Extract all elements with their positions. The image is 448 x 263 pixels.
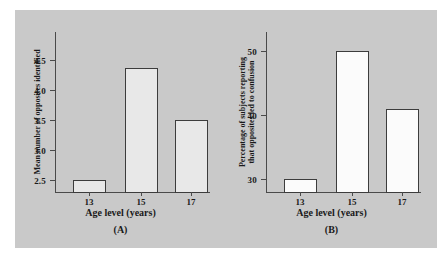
figure-root: Mean number of opposites identified 4.5 … xyxy=(0,0,448,263)
x-axis-label-b: Age level (years) xyxy=(226,207,437,218)
bar-b-15 xyxy=(336,51,369,193)
figure-panel: Mean number of opposites identified 4.5 … xyxy=(15,10,437,248)
y-tick-a-2: 3.5 xyxy=(50,120,55,121)
y-axis-label-a-text: Mean number of opposites identified xyxy=(34,49,43,174)
panel-caption-b: (B) xyxy=(226,224,437,235)
y-tick-label-a-0: 2.5 xyxy=(34,176,46,186)
bar-b-17 xyxy=(386,109,419,193)
y-axis-line-a xyxy=(55,32,56,192)
x-tick-b-17 xyxy=(402,192,403,196)
x-tick-label-a-13: 13 xyxy=(85,197,94,207)
y-tick-label-b-1: 40 xyxy=(248,111,257,121)
plot-area-b: 50 40 30 13 15 17 xyxy=(266,32,421,192)
y-tick-a-4: 4.5 xyxy=(50,60,55,61)
y-tick-label-a-4: 4.5 xyxy=(34,56,46,66)
bar-a-17 xyxy=(175,120,208,193)
y-tick-a-3: 4.0 xyxy=(50,90,55,91)
y-tick-a-1: 3.0 xyxy=(50,150,55,151)
y-tick-label-a-1: 3.0 xyxy=(34,146,46,156)
bar-a-15 xyxy=(125,68,158,193)
y-tick-label-a-2: 3.5 xyxy=(34,116,46,126)
x-tick-a-13 xyxy=(89,192,90,196)
bar-b-13 xyxy=(284,179,317,193)
x-tick-b-15 xyxy=(352,192,353,196)
x-tick-label-a-15: 15 xyxy=(137,197,146,207)
x-tick-b-13 xyxy=(300,192,301,196)
y-tick-b-2: 50 xyxy=(261,51,266,52)
y-tick-label-b-0: 30 xyxy=(248,175,257,185)
x-axis-label-a: Age level (years) xyxy=(15,207,226,218)
x-tick-label-b-13: 13 xyxy=(296,197,305,207)
y-tick-b-1: 40 xyxy=(261,115,266,116)
y-tick-label-a-3: 4.0 xyxy=(34,86,46,96)
panel-caption-a: (A) xyxy=(15,224,226,235)
y-tick-a-0: 2.5 xyxy=(50,180,55,181)
chart-panel-a: Mean number of opposites identified 4.5 … xyxy=(15,10,226,248)
chart-panel-b: Percentage of subjects reporting that op… xyxy=(226,10,437,248)
x-tick-a-15 xyxy=(141,192,142,196)
y-axis-line-b xyxy=(266,32,267,192)
x-tick-label-b-17: 17 xyxy=(398,197,407,207)
y-tick-label-b-2: 50 xyxy=(248,47,257,57)
x-tick-a-17 xyxy=(191,192,192,196)
y-tick-b-0: 30 xyxy=(261,179,266,180)
x-tick-label-a-17: 17 xyxy=(187,197,196,207)
plot-area-a: 4.5 4.0 3.5 3.0 2.5 xyxy=(55,32,210,192)
x-tick-label-b-15: 15 xyxy=(348,197,357,207)
